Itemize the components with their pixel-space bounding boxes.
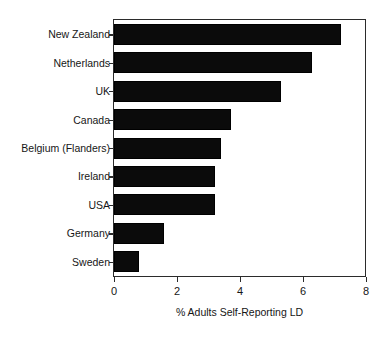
x-axis-tick-label: 0 [99, 285, 129, 298]
bar-row [114, 81, 281, 102]
bar-row [114, 223, 164, 244]
y-axis-tick-label: New Zealand [0, 28, 110, 40]
y-axis-tick-label: Germany [0, 227, 110, 239]
bar [114, 251, 139, 272]
y-axis-tick-label: Sweden [0, 256, 110, 268]
bars-container [114, 20, 366, 276]
bar [114, 81, 281, 102]
y-axis-category-labels: New Zealand Netherlands UK Canada Belgiu… [0, 20, 110, 276]
y-axis-tick-label: Belgium (Flanders) [0, 142, 110, 154]
x-axis-tick [366, 277, 367, 282]
bar [114, 52, 312, 73]
x-axis-tick-label: 6 [288, 285, 318, 298]
x-axis-tick-label: 8 [351, 285, 381, 298]
bar [114, 138, 221, 159]
bar-chart: New Zealand Netherlands UK Canada Belgiu… [0, 0, 390, 339]
x-axis-tick [114, 277, 115, 282]
y-axis-tick-label: Ireland [0, 170, 110, 182]
x-axis-tick [303, 277, 304, 282]
bar-row [114, 109, 231, 130]
bar [114, 24, 341, 45]
x-axis-tick [177, 277, 178, 282]
bar [114, 109, 231, 130]
bar [114, 166, 215, 187]
y-axis-tick-label: Netherlands [0, 57, 110, 69]
bar [114, 223, 164, 244]
x-axis-tick-label: 4 [225, 285, 255, 298]
bar-row [114, 52, 312, 73]
x-axis-tick-label: 2 [162, 285, 192, 298]
y-axis-tick-label: UK [0, 85, 110, 97]
bar-row [114, 251, 139, 272]
bar-row [114, 138, 221, 159]
y-axis-tick-label: Canada [0, 114, 110, 126]
bar-row [114, 24, 341, 45]
x-axis-title: % Adults Self-Reporting LD [113, 306, 366, 319]
bar [114, 194, 215, 215]
y-axis-tick-label: USA [0, 199, 110, 211]
bar-row [114, 194, 215, 215]
bar-row [114, 166, 215, 187]
x-axis-tick [240, 277, 241, 282]
